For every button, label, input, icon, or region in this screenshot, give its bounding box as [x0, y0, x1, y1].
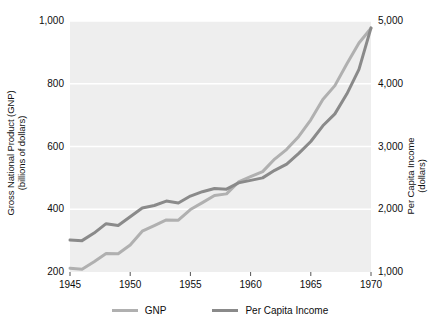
y-axis-left-tick-label: 400 [20, 203, 64, 214]
y-axis-right-title-line2: (dollars) [416, 96, 427, 256]
legend-label: Per Capita Income [245, 305, 328, 316]
y-axis-right-tick-label: 5,000 [378, 15, 422, 26]
chart-legend: GNPPer Capita Income [0, 305, 440, 316]
y-axis-left-tick-label: 200 [20, 266, 64, 277]
x-axis-tick-label: 1965 [289, 279, 333, 290]
x-axis-ticks [70, 272, 371, 276]
y-axis-left-tick-label: 1,000 [20, 15, 64, 26]
legend-swatch-icon [112, 309, 138, 312]
chart-container: Gross National Product (GNP) (billions o… [0, 0, 440, 331]
y-axis-right-title: Per Capita Income (dollars) [405, 96, 427, 256]
x-axis-tick-label: 1950 [108, 279, 152, 290]
y-axis-left-tick-label: 600 [20, 141, 64, 152]
y-axis-right-title-line1: Per Capita Income [405, 96, 416, 256]
y-axis-right-tick-label: 4,000 [378, 78, 422, 89]
x-axis-tick-label: 1945 [48, 279, 92, 290]
x-axis-tick-label: 1955 [168, 279, 212, 290]
x-axis-tick-label: 1970 [349, 279, 393, 290]
legend-item[interactable]: Per Capita Income [212, 305, 328, 316]
y-axis-left-tick-label: 800 [20, 78, 64, 89]
y-axis-right-tick-label: 3,000 [378, 141, 422, 152]
legend-item[interactable]: GNP [112, 305, 167, 316]
y-axis-right-tick-label: 2,000 [378, 203, 422, 214]
legend-swatch-icon [212, 309, 238, 312]
y-axis-right-tick-label: 1,000 [378, 266, 422, 277]
y-axis-left-title-line1: Gross National Product (GNP) [5, 73, 16, 233]
legend-label: GNP [145, 305, 167, 316]
x-axis-tick-label: 1960 [229, 279, 273, 290]
